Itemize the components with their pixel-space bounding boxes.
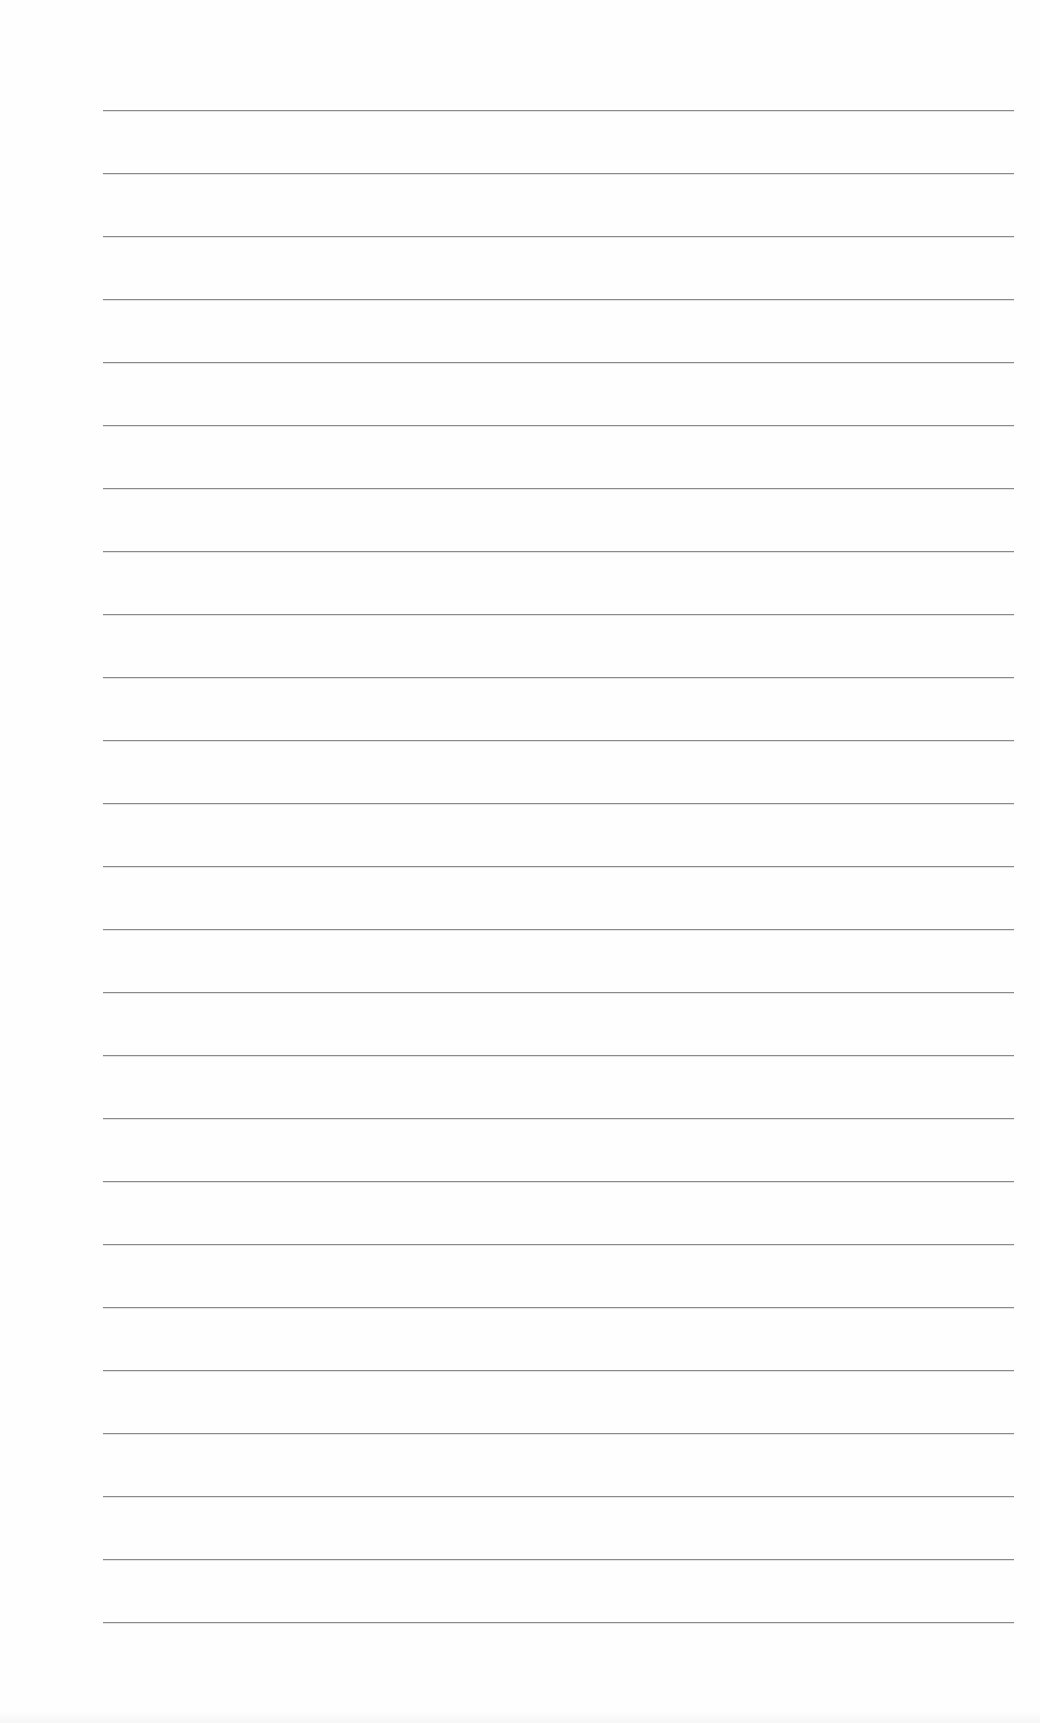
ruled-line — [103, 866, 1014, 867]
ruled-line — [103, 110, 1014, 111]
lined-paper-page — [0, 0, 1040, 1723]
ruled-line — [103, 362, 1014, 363]
ruled-line — [103, 425, 1014, 426]
ruled-line — [103, 1559, 1014, 1560]
ruled-line — [103, 1118, 1014, 1119]
ruled-line — [103, 1496, 1014, 1497]
ruled-line — [103, 1370, 1014, 1371]
ruled-line — [103, 1244, 1014, 1245]
ruled-line — [103, 173, 1014, 174]
ruled-line — [103, 1055, 1014, 1056]
ruled-line — [103, 929, 1014, 930]
ruled-line — [103, 1181, 1014, 1182]
ruled-line — [103, 1433, 1014, 1434]
page-bottom-edge — [0, 1709, 1040, 1723]
ruled-line — [103, 614, 1014, 615]
ruled-line — [103, 236, 1014, 237]
ruled-line — [103, 803, 1014, 804]
ruled-line — [103, 740, 1014, 741]
ruled-line — [103, 488, 1014, 489]
ruled-line — [103, 299, 1014, 300]
ruled-line — [103, 992, 1014, 993]
ruled-line — [103, 551, 1014, 552]
ruled-line — [103, 1307, 1014, 1308]
ruled-line — [103, 677, 1014, 678]
ruled-line — [103, 1622, 1014, 1623]
